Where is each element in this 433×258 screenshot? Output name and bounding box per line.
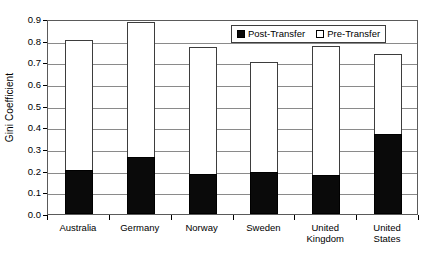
bar-post-transfer — [374, 134, 402, 214]
x-axis-tick-label: Germany — [109, 222, 171, 233]
x-axis-tick-mark — [233, 215, 234, 220]
plot-area — [47, 20, 418, 215]
x-axis-tick-mark — [47, 215, 48, 220]
y-axis-tick-label: 0.9 — [16, 15, 41, 25]
bar-group-container — [48, 21, 417, 214]
x-axis-tick-mark — [356, 215, 357, 220]
x-axis-tick-label: United Kingdom — [294, 222, 356, 244]
x-axis-tick-mark — [171, 215, 172, 220]
bar-post-transfer — [312, 175, 340, 214]
bar-post-transfer — [250, 172, 278, 214]
y-axis-tick-label: 0.0 — [16, 210, 41, 220]
x-axis-tick-mark — [294, 215, 295, 220]
y-axis-tick-label: 0.2 — [16, 167, 41, 177]
bar-post-transfer — [189, 174, 217, 214]
legend-swatch-icon — [316, 30, 324, 38]
legend-label: Pre-Transfer — [327, 28, 380, 39]
y-axis-tick-label: 0.5 — [16, 102, 41, 112]
x-axis-tick-mark — [109, 215, 110, 220]
bar-post-transfer — [65, 170, 93, 214]
y-axis-tick-label: 0.4 — [16, 123, 41, 133]
bar-group — [189, 19, 217, 214]
legend-entry: Pre-Transfer — [316, 28, 380, 39]
chart-legend: Post-TransferPre-Transfer — [231, 25, 386, 43]
legend-swatch-icon — [237, 30, 245, 38]
legend-label: Post-Transfer — [248, 28, 305, 39]
x-axis-tick-label: Sweden — [233, 222, 295, 233]
bar-post-transfer — [127, 157, 155, 214]
y-axis-tick-label: 0.3 — [16, 145, 41, 155]
y-axis-title: Gini Coefficient — [2, 0, 16, 215]
x-axis-tick-mark — [418, 215, 419, 220]
bar-group — [127, 19, 155, 214]
legend-entry: Post-Transfer — [237, 28, 305, 39]
y-axis-tick-label: 0.6 — [16, 80, 41, 90]
y-axis-tick-label: 0.8 — [16, 37, 41, 47]
bar-group — [312, 19, 340, 214]
bar-group — [374, 19, 402, 214]
bar-group — [250, 19, 278, 214]
y-axis-tick-label: 0.7 — [16, 58, 41, 68]
y-axis-tick-label: 0.1 — [16, 188, 41, 198]
gini-coefficient-bar-chart: Gini Coefficient 0.00.10.20.30.40.50.60.… — [0, 0, 433, 258]
bar-group — [65, 19, 93, 214]
x-axis-tick-label: Norway — [171, 222, 233, 233]
x-axis-tick-label: Australia — [47, 222, 109, 233]
x-axis-tick-label: United States — [356, 222, 418, 244]
